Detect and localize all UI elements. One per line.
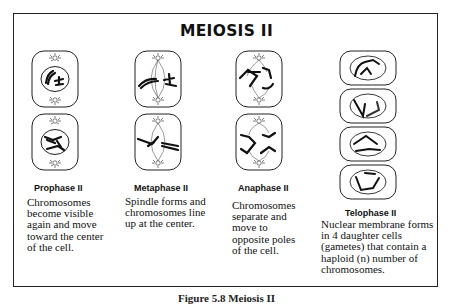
diagram-title: MEIOSIS II — [0, 22, 453, 40]
prophase-cell-top — [31, 50, 79, 108]
metaphase-cell-bottom — [134, 113, 182, 171]
stage-description-prophase: Chromosomes become visible again and mov… — [27, 197, 103, 253]
telophase-cell-4 — [339, 164, 397, 200]
metaphase-cell-top — [134, 50, 182, 108]
stage-description-metaphase: Spindle forms and chromosomes line up at… — [125, 196, 206, 230]
telophase-cell-2 — [339, 88, 397, 124]
anaphase-cell-top — [235, 50, 283, 108]
anaphase-cell-bottom — [235, 113, 283, 171]
stage-label-prophase: Prophase II — [34, 183, 83, 193]
telophase-cell-1 — [339, 50, 397, 86]
figure-caption: Figure 5.8 Meiosis II — [0, 292, 453, 304]
telophase-cell-3 — [339, 126, 397, 162]
stage-label-telophase: Telophase II — [345, 208, 396, 218]
stage-label-anaphase: Anaphase II — [238, 183, 289, 193]
stage-label-metaphase: Metaphase II — [134, 183, 188, 193]
stage-description-telophase: Nuclear membrane forms in 4 daughter cel… — [321, 219, 433, 275]
prophase-cell-bottom — [31, 113, 79, 171]
stage-description-anaphase: Chromosomes separate and move to opposit… — [232, 200, 296, 256]
